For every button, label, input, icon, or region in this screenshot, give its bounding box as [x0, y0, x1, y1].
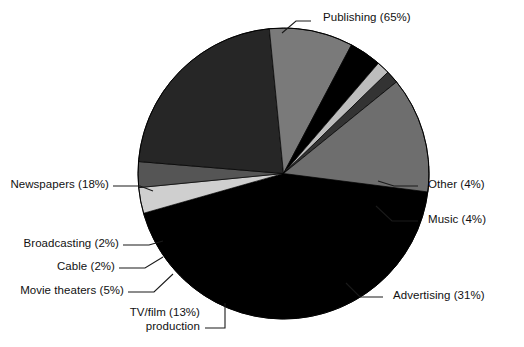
callout-label-movie-theaters: Movie theaters (5%)	[0, 284, 124, 298]
callout-label-advertising: Advertising (31%)	[393, 289, 485, 303]
callout-text-cable: Cable (2%)	[57, 260, 115, 272]
callout-label-publishing: Publishing (65%)	[323, 11, 411, 25]
callout-text-advertising: Advertising (31%)	[393, 289, 485, 301]
leader-line-movie-theaters	[128, 274, 173, 292]
callout-label-newspapers: Newspapers (18%)	[0, 178, 109, 192]
callout-label-cable: Cable (2%)	[0, 260, 115, 274]
callout-text-broadcasting: Broadcasting (2%)	[24, 237, 119, 249]
callout-text-publishing: Publishing (65%)	[323, 11, 411, 23]
pie-slice-advertising	[138, 29, 283, 174]
callout-label-other: Other (4%)	[428, 178, 485, 192]
callout-label-broadcasting: Broadcasting (2%)	[0, 237, 119, 251]
pie-slice-group	[138, 28, 429, 319]
callout-label-tv-film: TV/film (13%) production	[10, 306, 200, 333]
leader-line-cable	[119, 257, 163, 268]
callout-text-music: Music (4%)	[428, 213, 486, 225]
leader-line-tv-film	[205, 303, 225, 328]
callout-text-movie-theaters: Movie theaters (5%)	[20, 284, 124, 296]
callout-text-newspapers: Newspapers (18%)	[10, 178, 109, 190]
callout-label-music: Music (4%)	[428, 213, 486, 227]
callout-text-tv-film-line1: TV/film (13%)	[10, 306, 200, 320]
pie-chart-figure: Publishing (65%) Other (4%) Music (4%) A…	[0, 0, 524, 347]
callout-text-tv-film-line2: production	[10, 320, 200, 334]
callout-text-other: Other (4%)	[428, 178, 485, 190]
